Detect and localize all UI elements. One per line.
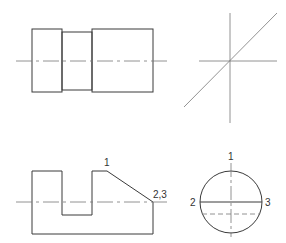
- circle-label-3: 3: [265, 197, 271, 208]
- label-point-2-3: 2,3: [153, 189, 167, 200]
- front-view: [16, 29, 168, 92]
- miter-construction: [184, 13, 277, 123]
- side-view: 1 2 3: [190, 151, 271, 237]
- left-cylinder-section: [32, 29, 62, 92]
- circle-label-1: 1: [228, 151, 234, 162]
- right-cylinder-section: [92, 29, 153, 92]
- slotted-block-outline: [32, 171, 153, 234]
- miter-45-line: [184, 13, 277, 107]
- drawing-canvas: 1 2,3 1 2 3: [0, 0, 286, 243]
- circle-label-2: 2: [190, 197, 196, 208]
- top-view: 1 2,3: [16, 157, 168, 234]
- label-point-1: 1: [104, 157, 110, 168]
